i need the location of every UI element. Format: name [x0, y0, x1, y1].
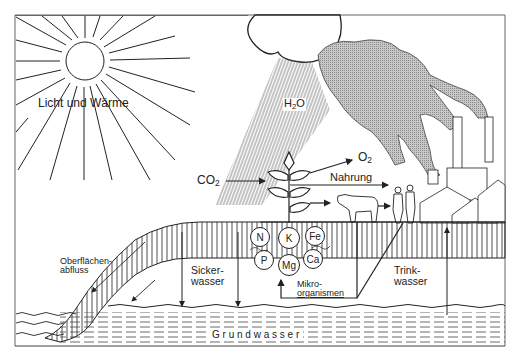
label-h2o: H2O	[283, 98, 306, 111]
nutrient-mg: Mg	[278, 254, 300, 276]
nutrient-ca: Ca	[303, 249, 323, 269]
label-runoff: Oberflächen-abfluss	[60, 257, 112, 276]
label-seepage: Sicker-wasser	[191, 265, 224, 287]
smoke-plume	[318, 40, 488, 178]
label-o2: O2	[358, 151, 372, 165]
label-microorganisms: Mikro-organismen	[297, 280, 344, 297]
water-table-line	[108, 305, 505, 308]
rain-hatch	[215, 58, 330, 205]
nutrient-p: P	[254, 250, 274, 270]
cow-icon	[338, 195, 379, 223]
people-icon	[393, 185, 415, 223]
diagram-canvas	[0, 0, 520, 360]
nutrient-n: N	[250, 227, 270, 247]
label-groundwater: G r u n d w a s s e r	[208, 330, 303, 341]
nutrient-k: K	[278, 227, 300, 249]
label-co2: CO2	[197, 174, 220, 188]
nutrient-fe: Fe	[305, 226, 325, 246]
label-light-warmth: Licht und Wärme	[38, 97, 129, 110]
factory-and-houses	[420, 117, 505, 223]
water-cycle-diagram: N K Fe P Mg Ca Licht und Wärme H2O CO2 O…	[0, 0, 520, 360]
label-nahrung: Nahrung	[330, 172, 372, 184]
label-drinking-water: Trink-wasser	[394, 265, 427, 287]
